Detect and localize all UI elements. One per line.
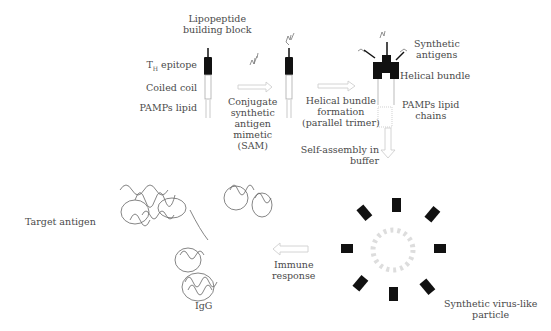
self-assembly-line-2: buffer (301, 155, 379, 166)
diagram-artwork (0, 0, 551, 331)
synthetic-antigens-line-1: Synthetic (414, 38, 460, 49)
conjugate-line-4: mimetic (228, 129, 277, 140)
label-helical-bundle: Helical bundle (400, 70, 470, 81)
label-th-epitope: TH epitope (146, 59, 197, 74)
arrow-conjugate-icon (238, 82, 272, 92)
label-conjugate-step: Conjugate synthetic antigen mimetic (SAM… (228, 96, 277, 151)
synthetic-antigens-line-2: antigens (414, 49, 460, 60)
conjugate-line-2: synthetic (228, 107, 277, 118)
building-block-title-line2: building block (183, 24, 252, 35)
label-synthetic-antigens: Synthetic antigens (414, 38, 460, 60)
immune-line-1: Immune (272, 259, 315, 270)
virus-like-particle (341, 198, 446, 301)
conjugate-line-3: antigen (228, 118, 277, 129)
conjugate-line-5: (SAM) (228, 140, 277, 151)
label-coiled-coil: Coiled coil (146, 82, 197, 93)
building-block-title-line1: Lipopeptide (183, 13, 252, 24)
label-helical-step: Helical bundle formation (parallel trime… (302, 95, 380, 128)
label-synthetic-vlp: Synthetic virus-like particle (444, 298, 537, 320)
conjugated-building-block (285, 33, 294, 118)
label-immune-response: Immune response (272, 259, 315, 281)
arrow-helical-icon (318, 81, 355, 91)
label-target-antigen: Target antigen (25, 216, 96, 227)
synthetic-vlp-line-2: particle (444, 309, 537, 320)
helical-line-1: Helical bundle (302, 95, 380, 106)
pamps-lipid-chains-line-2: chains (402, 110, 459, 121)
synthetic-vlp-line-1: Synthetic virus-like (444, 298, 537, 309)
pamps-lipid-chains-line-1: PAMPs lipid (402, 99, 459, 110)
building-block-title: Lipopeptide building block (183, 13, 252, 35)
helical-line-3: (parallel trimer) (302, 117, 380, 128)
label-self-assembly-step: Self-assembly in buffer (301, 144, 379, 166)
label-pamps-lipid-chains: PAMPs lipid chains (402, 99, 459, 121)
th-rest: epitope (158, 59, 197, 70)
self-assembly-line-1: Self-assembly in (301, 144, 379, 155)
label-igg: IgG (195, 300, 212, 311)
label-pamps-lipid: PAMPs lipid (140, 102, 197, 113)
conjugate-line-1: Conjugate (228, 96, 277, 107)
lipopeptide-building-block (204, 48, 212, 118)
helical-line-2: formation (302, 106, 380, 117)
arrow-self-assembly-icon (381, 128, 395, 158)
arrow-immune-response-icon (273, 243, 308, 255)
igg-antibody-structure (120, 185, 272, 301)
immune-line-2: response (272, 270, 315, 281)
antigen-glyph-icon (250, 53, 258, 65)
